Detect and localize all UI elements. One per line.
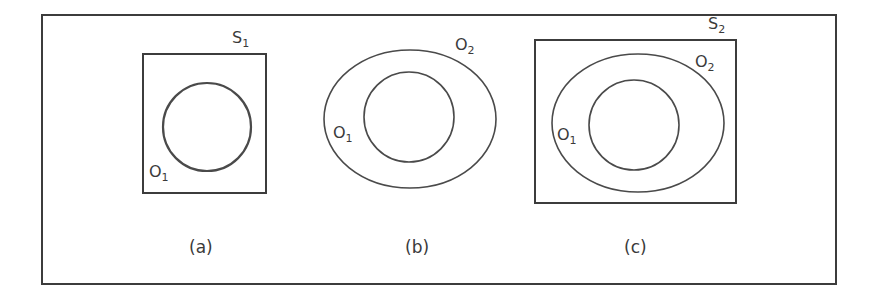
object-o1-circle [589,80,679,170]
object-o2-ellipse [552,54,724,192]
panel-b-caption: (b) [405,237,429,257]
panel-a: S1 O1 (a) [143,28,266,257]
set-s1-label: S1 [232,28,249,50]
object-o1-label: O1 [149,162,169,184]
object-o1-label: O1 [333,123,353,145]
venn-diagram-figure: S1 O1 (a) O2 O1 (b) S2 O2 O1 (c) [0,0,872,304]
panel-b: O2 O1 (b) [324,35,496,257]
object-o2-label: O2 [695,52,715,74]
panel-a-caption: (a) [189,237,213,257]
object-o1-circle [364,72,454,162]
panel-c-caption: (c) [624,237,647,257]
object-o2-label: O2 [455,35,475,57]
object-o1-circle [163,83,251,171]
set-s2-label: S2 [708,14,725,36]
panel-c: S2 O2 O1 (c) [535,14,736,257]
object-o1-label: O1 [557,125,577,147]
object-o2-ellipse [324,50,496,188]
